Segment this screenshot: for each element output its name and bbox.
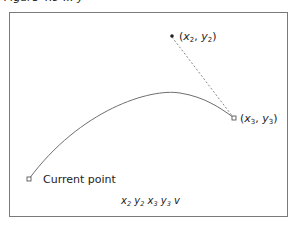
current-point-label: Current point	[43, 173, 117, 186]
control-point-marker	[170, 34, 174, 38]
end-point-marker	[232, 116, 236, 120]
current-point-marker	[27, 177, 31, 181]
end-point-label: (x3, y3)	[240, 112, 278, 126]
control-tangent-line	[172, 37, 233, 117]
control-point-label: (x2, y2)	[179, 30, 217, 44]
operator-line: x2 y2 x3 y3 v	[120, 195, 181, 208]
bezier-curve	[29, 92, 233, 179]
bezier-diagram: (x2, y2) (x3, y3) Current point x2 y2 x3…	[0, 0, 296, 228]
